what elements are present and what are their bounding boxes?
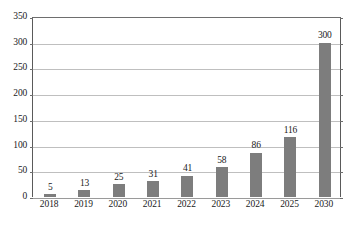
y-axis-tick-label: 150 xyxy=(0,115,27,125)
bar[interactable] xyxy=(216,167,228,197)
bar-slot: 86 xyxy=(239,18,273,197)
bar-chart: 5132531415886116300 20182019202020212022… xyxy=(0,0,352,226)
bar[interactable] xyxy=(250,153,262,197)
bar-slot: 31 xyxy=(136,18,170,197)
bar[interactable] xyxy=(113,184,125,197)
bars-layer: 5132531415886116300 xyxy=(33,18,340,197)
x-axis-tick-label: 2018 xyxy=(40,199,59,210)
bar-slot: 41 xyxy=(170,18,204,197)
y-axis-tick-label: 300 xyxy=(0,38,27,48)
x-axis-tick-label: 2024 xyxy=(246,199,265,210)
bar[interactable] xyxy=(44,194,56,197)
y-axis-tick-label: 200 xyxy=(0,89,27,99)
y-axis-tick-label: 0 xyxy=(0,192,27,202)
bar[interactable] xyxy=(181,176,193,197)
bar-value-label: 300 xyxy=(318,31,332,41)
x-axis-tick-label: 2021 xyxy=(143,199,162,210)
bar[interactable] xyxy=(147,181,159,197)
bar-value-label: 5 xyxy=(48,183,53,193)
y-axis-tick-label: 250 xyxy=(0,63,27,73)
bar-value-label: 41 xyxy=(183,164,192,174)
bar-value-label: 116 xyxy=(284,126,297,136)
x-axis-tick-label: 2020 xyxy=(109,199,128,210)
bar-slot: 5 xyxy=(33,18,67,197)
plot-area: 5132531415886116300 xyxy=(32,17,341,197)
y-axis-tick-label: 100 xyxy=(0,141,27,151)
x-axis-tick-label: 2023 xyxy=(212,199,231,210)
y-axis-tick-label: 350 xyxy=(0,12,27,22)
bar[interactable] xyxy=(319,43,331,197)
x-axis-tick-label: 2030 xyxy=(315,199,334,210)
bar-slot: 13 xyxy=(67,18,101,197)
bar[interactable] xyxy=(78,190,90,197)
bar-slot: 25 xyxy=(102,18,136,197)
bar-slot: 58 xyxy=(205,18,239,197)
bar-slot: 116 xyxy=(273,18,307,197)
bar-value-label: 31 xyxy=(149,170,158,180)
x-axis-tick-label: 2025 xyxy=(280,199,299,210)
bar-value-label: 58 xyxy=(217,156,226,166)
bar-slot: 300 xyxy=(308,18,342,197)
bar-value-label: 13 xyxy=(80,179,89,189)
x-axis-labels: 201820192020202120222023202420252030 xyxy=(32,199,341,219)
x-axis-tick-label: 2019 xyxy=(74,199,93,210)
x-axis-tick-label: 2022 xyxy=(177,199,196,210)
bar[interactable] xyxy=(284,137,296,197)
bar-value-label: 25 xyxy=(114,173,123,183)
y-axis-tick-label: 50 xyxy=(0,166,27,176)
bar-value-label: 86 xyxy=(252,141,261,151)
